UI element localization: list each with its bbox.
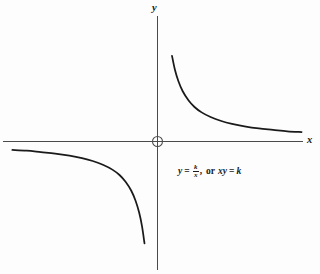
caption-rhs-expression: xy bbox=[218, 167, 227, 177]
hyperbola-figure: y x y = k x , or xy = k bbox=[0, 0, 320, 274]
caption-fraction-numerator: k bbox=[193, 164, 199, 171]
caption-or-word: or bbox=[205, 167, 218, 177]
hyperbola-branch-upper-right bbox=[172, 56, 302, 132]
caption-fraction-denominator: x bbox=[193, 172, 199, 179]
caption-rhs-constant: k bbox=[236, 167, 241, 177]
y-axis-label: y bbox=[152, 3, 157, 14]
x-axis-label: x bbox=[307, 135, 312, 146]
plot-canvas bbox=[0, 0, 320, 274]
caption-equals-sign: = bbox=[182, 167, 191, 177]
caption-fraction: k x bbox=[193, 164, 199, 179]
hyperbola-branch-lower-left bbox=[12, 150, 144, 243]
caption-equals-sign-2: = bbox=[227, 167, 236, 177]
equation-caption: y = k x , or xy = k bbox=[178, 164, 241, 179]
